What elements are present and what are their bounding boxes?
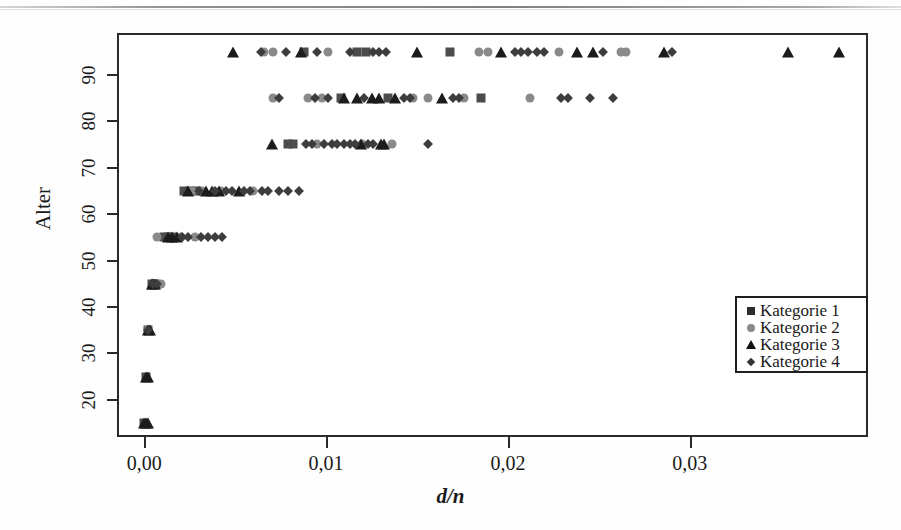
data-point bbox=[266, 139, 278, 150]
data-point bbox=[539, 47, 549, 57]
triangle-marker-icon bbox=[743, 340, 758, 349]
x-axis-title: d/n bbox=[0, 484, 901, 509]
data-point bbox=[373, 93, 385, 104]
data-point bbox=[495, 46, 507, 57]
y-axis-tick bbox=[107, 213, 117, 215]
x-axis-tick-label: 0,01 bbox=[309, 452, 344, 475]
data-point bbox=[436, 93, 448, 104]
data-point bbox=[525, 94, 534, 103]
data-point bbox=[263, 186, 273, 196]
y-axis-tick bbox=[107, 260, 117, 262]
data-point bbox=[423, 139, 433, 149]
data-point bbox=[381, 47, 391, 57]
data-point bbox=[622, 47, 631, 56]
x-axis-tick-label: 0,00 bbox=[127, 452, 162, 475]
x-axis-tick bbox=[508, 437, 510, 448]
legend-item: Kategorie 1 bbox=[743, 302, 862, 319]
legend-item: Kategorie 3 bbox=[743, 336, 862, 353]
y-axis-title: Alter bbox=[31, 187, 56, 230]
data-point bbox=[378, 139, 390, 150]
data-point bbox=[323, 47, 332, 56]
x-axis-tick bbox=[326, 437, 328, 448]
y-axis-tick bbox=[107, 352, 117, 354]
data-point bbox=[571, 46, 583, 57]
y-axis-tick bbox=[107, 399, 117, 401]
data-point bbox=[281, 47, 291, 57]
y-axis-tick-label: 20 bbox=[78, 387, 100, 413]
legend-item-label: Kategorie 4 bbox=[760, 353, 840, 370]
scatter-plot-figure: 2030405060708090 0,000,010,020,03 Alter … bbox=[0, 0, 901, 530]
y-axis-tick bbox=[107, 306, 117, 308]
scan-artifact-line bbox=[0, 6, 901, 8]
data-point bbox=[269, 47, 278, 56]
x-axis-tick-label: 0,03 bbox=[672, 452, 707, 475]
plot-area bbox=[117, 33, 868, 437]
data-point bbox=[411, 46, 423, 57]
data-point bbox=[218, 232, 228, 242]
y-axis-tick-label: 50 bbox=[78, 248, 100, 274]
legend: Kategorie 1Kategorie 2Kategorie 3Kategor… bbox=[735, 296, 868, 373]
data-point bbox=[227, 46, 239, 57]
data-point bbox=[142, 371, 154, 382]
legend-item-label: Kategorie 2 bbox=[760, 319, 840, 336]
x-axis-tick bbox=[144, 437, 146, 448]
x-axis-tick bbox=[690, 437, 692, 448]
y-axis-tick bbox=[107, 120, 117, 122]
data-point bbox=[312, 47, 322, 57]
data-point bbox=[294, 186, 304, 196]
legend-item: Kategorie 4 bbox=[743, 353, 862, 370]
x-axis-tick-label: 0,02 bbox=[490, 452, 525, 475]
data-point bbox=[483, 47, 492, 56]
data-point bbox=[289, 140, 298, 149]
data-point bbox=[182, 185, 194, 196]
y-axis-tick bbox=[107, 167, 117, 169]
legend-item-label: Kategorie 3 bbox=[760, 336, 840, 353]
y-axis-tick-label: 70 bbox=[78, 155, 100, 181]
data-point bbox=[833, 46, 845, 57]
y-axis-tick-label: 40 bbox=[78, 294, 100, 320]
data-point bbox=[563, 93, 573, 103]
y-axis-tick-label: 30 bbox=[78, 340, 100, 366]
data-point bbox=[608, 93, 618, 103]
diamond-marker-icon bbox=[743, 359, 758, 365]
data-point bbox=[153, 233, 162, 242]
scan-artifact-line-secondary bbox=[0, 9, 901, 10]
data-point bbox=[476, 94, 485, 103]
y-axis-tick-label: 90 bbox=[78, 62, 100, 88]
data-point bbox=[554, 47, 563, 56]
legend-item: Kategorie 2 bbox=[743, 319, 862, 336]
y-axis-tick-label: 80 bbox=[78, 108, 100, 134]
data-point bbox=[474, 47, 483, 56]
data-point bbox=[445, 47, 454, 56]
y-axis-tick-label: 60 bbox=[78, 201, 100, 227]
data-point bbox=[585, 93, 595, 103]
data-point bbox=[423, 94, 432, 103]
data-point bbox=[295, 46, 307, 57]
data-point bbox=[283, 186, 293, 196]
circle-marker-icon bbox=[743, 324, 758, 332]
square-marker-icon bbox=[743, 307, 758, 315]
data-point bbox=[338, 93, 350, 104]
y-axis-tick bbox=[107, 74, 117, 76]
data-point bbox=[782, 46, 794, 57]
legend-item-label: Kategorie 1 bbox=[760, 302, 840, 319]
data-point bbox=[142, 418, 154, 429]
